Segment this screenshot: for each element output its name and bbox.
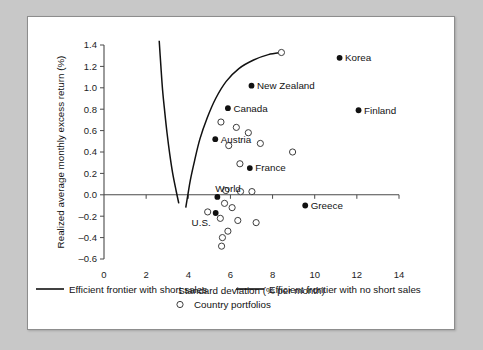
country-point [337,55,343,61]
legend-marker-country-portfolios [177,301,183,307]
country-point-label: Korea [345,52,372,63]
country-point-label: Austria [221,134,252,145]
figure-root: –0.6–0.4–0.20.00.20.40.60.81.01.21.40246… [0,0,483,350]
x-axis-tick-label: 6 [228,269,233,280]
x-axis-tick-label: 10 [309,269,320,280]
y-axis-tick-label: –0.2 [79,211,98,222]
country-portfolio-point [225,228,231,234]
country-portfolio-point [217,215,223,221]
y-axis-tick-label: 0.2 [84,168,97,179]
country-portfolio-point [278,49,284,55]
country-portfolio-point [235,217,241,223]
figure-panel: –0.6–0.4–0.20.00.20.40.60.81.01.21.40246… [27,16,455,330]
x-axis-tick-label: 14 [394,269,405,280]
legend-label-country-portfolios: Country portfolios [194,299,271,310]
country-portfolio-point [218,119,224,125]
country-portfolio-point [205,209,211,215]
country-point-label: World [215,183,240,194]
frontier-curve [159,41,179,204]
country-point [213,210,219,216]
country-portfolio-point [218,243,224,249]
y-axis-tick-label: 1.0 [84,82,97,93]
y-axis-tick-label: –0.4 [79,232,98,243]
country-portfolio-point [257,140,263,146]
country-point [249,83,255,89]
country-portfolio-point [221,200,227,206]
y-axis-tick-label: 0.0 [84,189,97,200]
y-axis-tick-label: 0.4 [84,146,97,157]
country-portfolio-point [253,220,259,226]
country-point [302,203,308,209]
x-axis-tick-label: 12 [352,269,363,280]
country-point-label: France [255,162,286,173]
scatter-chart: –0.6–0.4–0.20.00.20.40.60.81.01.21.40246… [28,17,456,331]
country-point-label: U.S. [192,217,211,228]
country-point [356,107,362,113]
y-axis-tick-label: –0.6 [79,253,98,264]
country-point-label: Greece [311,200,344,211]
y-axis-tick-label: 1.2 [84,61,97,72]
country-point [214,194,220,200]
country-point [212,136,218,142]
country-point-label: Finland [364,105,396,116]
country-point [225,105,231,111]
country-portfolio-point [237,161,243,167]
x-axis-tick-label: 0 [101,269,106,280]
country-portfolio-point [229,205,235,211]
x-axis-tick-label: 8 [270,269,275,280]
y-axis-tick-label: 0.8 [84,104,97,115]
x-axis-tick-label: 4 [186,269,191,280]
legend-label-short-sales: Efficient frontier with short sales [69,284,207,295]
country-portfolio-point [219,235,225,241]
plot-area: –0.6–0.4–0.20.00.20.40.60.81.01.21.40246… [28,17,456,331]
y-axis-tick-label: 1.4 [84,39,97,50]
country-portfolio-point [249,188,255,194]
y-axis-title: Realized average monthly excess return (… [55,56,66,249]
country-point-label: Canada [233,103,268,114]
x-axis-tick-label: 2 [143,269,148,280]
y-axis-tick-label: 0.6 [84,125,97,136]
legend-label-no-short-sales: Efficient frontier with no short sales [269,284,421,295]
country-point [247,165,253,171]
country-point-label: New Zealand [257,80,315,91]
country-portfolio-point [233,124,239,130]
country-portfolio-point [289,149,295,155]
